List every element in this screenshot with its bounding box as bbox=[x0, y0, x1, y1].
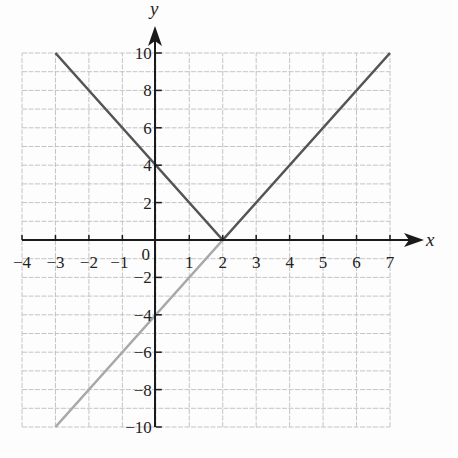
x-tick-label: 1 bbox=[185, 253, 194, 272]
y-tick-label: −4 bbox=[134, 306, 153, 325]
y-tick-label: 4 bbox=[143, 156, 152, 175]
x-tick-label: 7 bbox=[386, 253, 395, 272]
x-tick-label: 0 bbox=[142, 245, 151, 264]
x-tick-label: 4 bbox=[285, 253, 294, 272]
y-tick-label: 6 bbox=[143, 119, 152, 138]
y-tick-label: 2 bbox=[143, 194, 152, 213]
y-tick-label: −6 bbox=[134, 343, 152, 362]
y-tick-label: 10 bbox=[135, 44, 152, 63]
x-tick-label: −1 bbox=[110, 253, 128, 272]
y-axis-label: y bbox=[148, 0, 159, 19]
x-axis-label: x bbox=[425, 229, 435, 250]
y-tick-label: −8 bbox=[134, 381, 152, 400]
y-tick-label: 8 bbox=[143, 81, 152, 100]
y-tick-label: −2 bbox=[134, 268, 152, 287]
x-tick-label: 2 bbox=[218, 253, 227, 272]
x-tick-label: −3 bbox=[46, 253, 64, 272]
x-tick-label: −2 bbox=[80, 253, 98, 272]
x-tick-label: 5 bbox=[319, 253, 328, 272]
y-tick-label: −10 bbox=[125, 418, 152, 437]
x-tick-label: −4 bbox=[13, 253, 32, 272]
chart: −4−3−2−101234567108642−2−4−6−8−10 x y bbox=[0, 0, 458, 458]
x-tick-label: 3 bbox=[252, 253, 261, 272]
x-tick-label: 6 bbox=[352, 253, 361, 272]
